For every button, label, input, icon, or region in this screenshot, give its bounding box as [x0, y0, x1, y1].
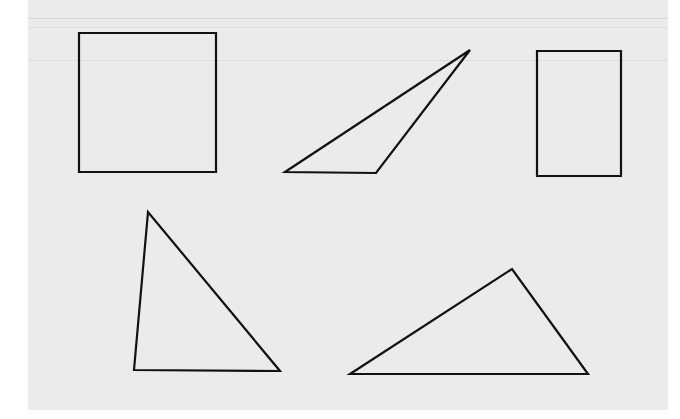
- rectangle-shape: [537, 51, 621, 176]
- acute-triangle-shape: [134, 212, 280, 371]
- wide-triangle-shape: [350, 269, 588, 374]
- shapes-canvas: [0, 0, 680, 419]
- square-shape: [79, 33, 216, 172]
- obtuse-triangle-shape: [285, 50, 470, 173]
